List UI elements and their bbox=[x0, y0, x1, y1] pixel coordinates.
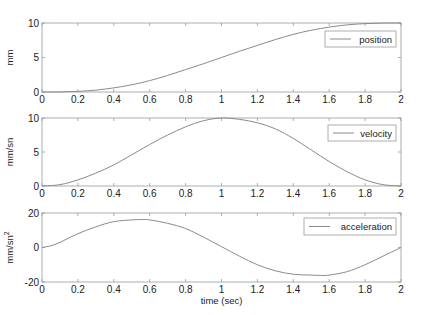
y-tick-label: 0 bbox=[33, 181, 39, 192]
x-tick-label: 1 bbox=[219, 188, 225, 199]
x-tick-label: 1.4 bbox=[286, 94, 300, 105]
x-tick-label: 1.6 bbox=[322, 284, 336, 295]
x-tick-label: 0.6 bbox=[143, 284, 157, 295]
subplot-2: 00.20.40.60.811.21.41.61.820510mm/snvelo… bbox=[4, 113, 404, 200]
subplot-3: 00.20.40.60.811.21.41.61.82-20020mm/sn2t… bbox=[3, 208, 404, 307]
x-tick-label: 0.2 bbox=[71, 94, 85, 105]
y-tick-label: 10 bbox=[28, 113, 40, 124]
y-tick-label: -20 bbox=[25, 277, 40, 288]
y-tick-label: 0 bbox=[33, 242, 39, 253]
y-axis-label: mm/sn bbox=[4, 138, 15, 167]
x-tick-label: 0 bbox=[39, 284, 45, 295]
x-tick-label: 1.8 bbox=[358, 94, 372, 105]
x-tick-label: 0.8 bbox=[179, 94, 193, 105]
legend: acceleration bbox=[304, 218, 396, 235]
x-tick-label: 1.6 bbox=[322, 94, 336, 105]
x-tick-label: 1.8 bbox=[358, 188, 372, 199]
y-tick-label: 20 bbox=[28, 208, 40, 219]
x-tick-label: 0.6 bbox=[143, 188, 157, 199]
legend: position bbox=[325, 31, 396, 47]
x-tick-label: 1.4 bbox=[286, 284, 300, 295]
x-tick-label: 0.8 bbox=[179, 284, 193, 295]
x-tick-label: 0 bbox=[39, 94, 45, 105]
x-tick-label: 1.2 bbox=[250, 284, 264, 295]
x-tick-label: 2 bbox=[398, 284, 404, 295]
x-tick-label: 1.2 bbox=[250, 188, 264, 199]
x-tick-label: 1.8 bbox=[358, 284, 372, 295]
subplot-1: 00.20.40.60.811.21.41.61.820510mmpositio… bbox=[4, 18, 404, 106]
x-tick-label: 1 bbox=[219, 284, 225, 295]
x-tick-label: 1.2 bbox=[250, 94, 264, 105]
x-tick-label: 1.6 bbox=[322, 188, 336, 199]
x-tick-label: 1.4 bbox=[286, 188, 300, 199]
figure: 00.20.40.60.811.21.41.61.820510mmpositio… bbox=[0, 0, 421, 315]
x-tick-label: 0.6 bbox=[143, 94, 157, 105]
y-tick-label: 5 bbox=[33, 52, 39, 63]
x-tick-label: 0.8 bbox=[179, 188, 193, 199]
x-axis-label: time (sec) bbox=[201, 295, 243, 306]
x-tick-label: 0.2 bbox=[71, 284, 85, 295]
legend: velocity bbox=[328, 125, 396, 141]
y-tick-label: 5 bbox=[33, 147, 39, 158]
x-tick-label: 0.4 bbox=[107, 284, 121, 295]
y-tick-label: 10 bbox=[28, 18, 40, 29]
x-tick-label: 2 bbox=[398, 94, 404, 105]
x-tick-label: 0.4 bbox=[107, 188, 121, 199]
legend-label: acceleration bbox=[341, 221, 392, 232]
x-tick-label: 1 bbox=[219, 94, 225, 105]
x-tick-label: 2 bbox=[398, 188, 404, 199]
y-axis-label: mm/sn2 bbox=[3, 231, 15, 264]
x-tick-label: 0 bbox=[39, 188, 45, 199]
legend-label: position bbox=[359, 34, 392, 45]
x-tick-label: 0.2 bbox=[71, 188, 85, 199]
y-axis-label: mm bbox=[4, 50, 15, 66]
x-tick-label: 0.4 bbox=[107, 94, 121, 105]
y-tick-label: 0 bbox=[33, 87, 39, 98]
legend-label: velocity bbox=[360, 128, 392, 139]
